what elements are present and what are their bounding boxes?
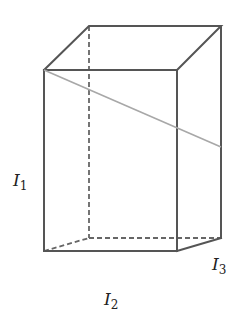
label-subscript: 1 xyxy=(20,179,28,193)
label-letter: I xyxy=(212,254,219,274)
prism-diagram xyxy=(0,0,236,324)
label-subscript: 3 xyxy=(219,263,227,277)
hidden-edge-bottom-left-depth xyxy=(44,238,89,251)
label-subscript: 2 xyxy=(111,298,119,312)
label-height-l1: I1 xyxy=(13,172,27,192)
label-width-l2: I2 xyxy=(104,291,118,311)
front-face xyxy=(44,70,177,251)
label-letter: I xyxy=(104,289,111,309)
edge-bottom-right-depth xyxy=(177,238,221,251)
label-depth-l3: I3 xyxy=(212,256,226,276)
top-face-edges xyxy=(44,26,221,70)
space-diagonal xyxy=(44,70,221,147)
label-letter: I xyxy=(13,170,20,190)
